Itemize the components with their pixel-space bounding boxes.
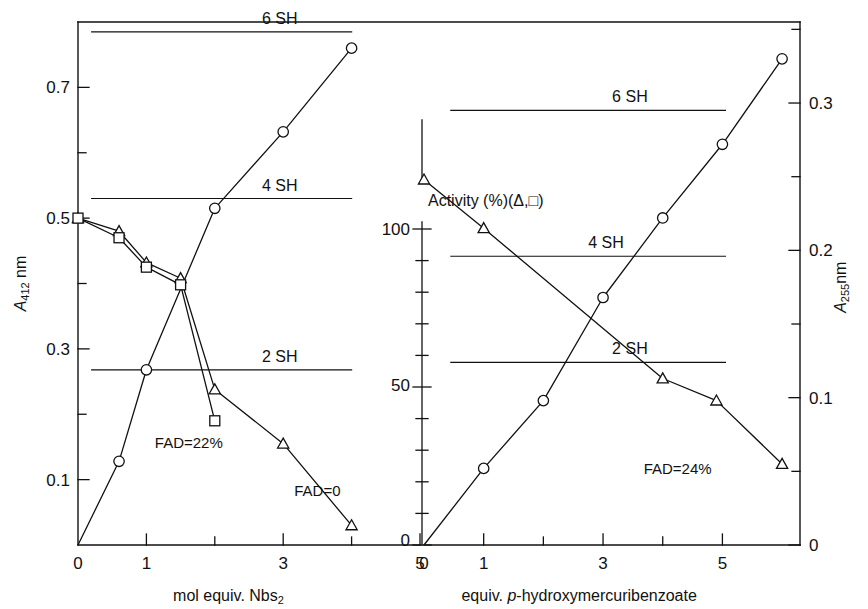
left-y-axis-title: A412 nm — [12, 256, 31, 313]
center-axis-title: Activity (%)(Δ,□) — [428, 192, 543, 209]
reference-line-label: 2 SH — [612, 340, 648, 357]
right-x-tick-label: 1 — [479, 554, 488, 573]
data-point-circle — [210, 203, 220, 213]
left-x-tick-label: 1 — [142, 554, 151, 573]
reference-line-label: 2 SH — [262, 348, 298, 365]
data-point-triangle — [209, 384, 220, 394]
data-point-square — [73, 213, 83, 223]
annotation-label: FAD=22% — [155, 434, 223, 451]
center-axis-tick-label: 100 — [382, 220, 410, 239]
left-y-tick-label: 0.1 — [46, 471, 70, 490]
data-point-circle — [478, 463, 488, 473]
data-point-triangle — [478, 223, 489, 233]
scientific-figure: 0.10.30.50.7A412 nm0135mol equiv. Nbs210… — [0, 0, 868, 609]
series-line-triangle — [78, 218, 352, 525]
reference-line-label: 6 SH — [262, 10, 298, 27]
left-y-tick-label: 0.7 — [46, 78, 70, 97]
series-line-square — [78, 218, 215, 421]
data-point-triangle — [418, 174, 429, 184]
data-point-circle — [114, 456, 124, 466]
reference-line-label: 4 SH — [588, 234, 624, 251]
data-point-square — [114, 233, 124, 243]
right-y-tick-label: 0.2 — [809, 241, 833, 260]
right-x-tick-label: 3 — [598, 554, 607, 573]
data-point-circle — [278, 127, 288, 137]
data-point-square — [176, 280, 186, 290]
right-x-axis-title: equiv. p-hydroxymercuribenzoate — [461, 587, 696, 604]
left-y-tick-label: 0.5 — [46, 209, 70, 228]
left-y-tick-label: 0.3 — [46, 340, 70, 359]
data-point-circle — [658, 213, 668, 223]
reference-line-label: 6 SH — [612, 88, 648, 105]
right-y-tick-label: 0.1 — [809, 389, 833, 408]
annotation-label: FAD=0 — [294, 482, 340, 499]
right-y-tick-label: 0 — [809, 536, 818, 555]
data-point-circle — [538, 395, 548, 405]
left-x-tick-label: 0 — [73, 554, 82, 573]
data-point-triangle — [278, 438, 289, 448]
data-point-circle — [717, 139, 727, 149]
data-point-circle — [346, 43, 356, 53]
left-x-axis-title: mol equiv. Nbs2 — [173, 587, 284, 606]
series-line-triangle — [424, 180, 782, 464]
data-point-square — [141, 262, 151, 272]
data-point-circle — [777, 54, 787, 64]
reference-line-label: 4 SH — [262, 177, 298, 194]
left-x-tick-label: 3 — [278, 554, 287, 573]
annotation-label: FAD=24% — [644, 460, 712, 477]
right-x-tick-label: 0 — [419, 554, 428, 573]
figure-container: 0.10.30.50.7A412 nm0135mol equiv. Nbs210… — [0, 0, 868, 609]
center-axis-tick-label: 0 — [401, 531, 410, 550]
right-y-axis-title: A255nm — [832, 262, 851, 314]
right-x-tick-label: 5 — [718, 554, 727, 573]
center-axis-tick-label: 50 — [391, 376, 410, 395]
data-point-triangle — [711, 395, 722, 405]
right-y-tick-label: 0.3 — [809, 94, 833, 113]
data-point-circle — [141, 365, 151, 375]
data-point-square — [210, 416, 220, 426]
series-line-circle — [78, 48, 352, 545]
data-point-circle — [598, 292, 608, 302]
